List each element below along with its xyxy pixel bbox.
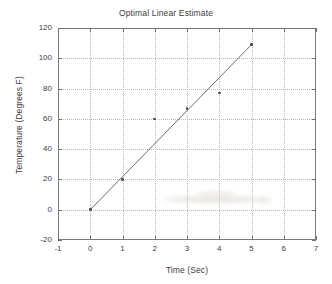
x-tick-label: 7 (301, 244, 331, 253)
x-tick-label: 0 (75, 244, 105, 253)
scan-artifact-2 (196, 191, 236, 197)
plot-area (58, 28, 316, 240)
x-tick-label: 4 (204, 244, 234, 253)
fit-line-path (90, 45, 251, 210)
data-point (250, 43, 253, 46)
chart-title: Optimal Linear Estimate (0, 8, 332, 18)
data-point (153, 118, 156, 121)
y-tick-label: 40 (24, 144, 52, 153)
tick-mark-y (312, 240, 316, 241)
data-point (89, 208, 92, 211)
y-tick-label: 80 (24, 84, 52, 93)
tick-mark-y (58, 240, 62, 241)
x-tick-label: 1 (108, 244, 138, 253)
scan-artifact-3 (258, 197, 272, 203)
tick-mark-x (316, 28, 317, 32)
x-tick-label: -1 (43, 244, 73, 253)
x-axis-label: Time (Sec) (58, 265, 316, 275)
tick-mark-x (316, 236, 317, 240)
y-axis-label: Temperature (Degrees F) (14, 40, 24, 210)
regression-line (58, 28, 316, 240)
data-point (121, 178, 124, 181)
x-tick-label: 3 (172, 244, 202, 253)
x-tick-label: 5 (237, 244, 267, 253)
y-tick-label: 0 (24, 205, 52, 214)
x-tick-label: 6 (269, 244, 299, 253)
y-tick-label: 100 (24, 53, 52, 62)
scan-artifact-1 (165, 196, 265, 203)
y-tick-label: 20 (24, 174, 52, 183)
y-tick-label: -20 (24, 235, 52, 244)
figure-canvas: Optimal Linear Estimate Temperature (Deg… (0, 0, 332, 284)
y-tick-label: 60 (24, 114, 52, 123)
data-point (186, 107, 189, 110)
y-tick-label: 120 (24, 23, 52, 32)
x-tick-label: 2 (140, 244, 170, 253)
